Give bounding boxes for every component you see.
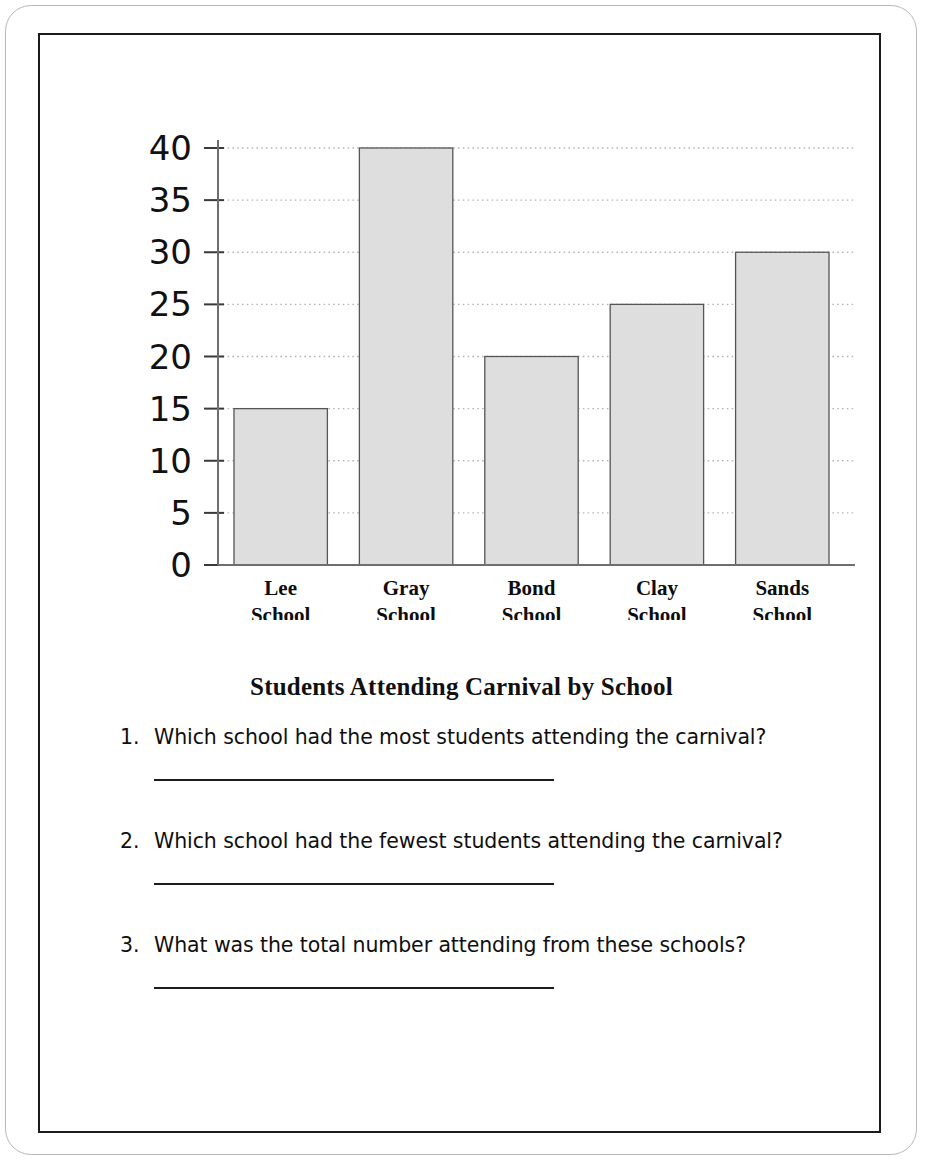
bar	[485, 357, 578, 566]
y-tick-label: 20	[149, 337, 192, 377]
y-tick-label: 40	[149, 128, 192, 168]
answer-line-2[interactable]	[154, 883, 554, 885]
bar-chart: 0510152025303540 LeeSchoolGraySchoolBond…	[100, 90, 890, 620]
bar	[610, 304, 703, 565]
question-row: 1. Which school had the most students at…	[120, 725, 820, 749]
category-label: Sands	[755, 576, 809, 600]
bar	[359, 148, 452, 565]
y-tick-label: 25	[149, 284, 192, 324]
y-tick-label: 35	[149, 180, 192, 220]
category-label: Lee	[264, 576, 297, 600]
bar	[234, 409, 327, 565]
y-tick-label: 0	[170, 545, 192, 585]
question-item-1: 1. Which school had the most students at…	[120, 725, 820, 781]
y-tick-label: 30	[149, 232, 192, 272]
question-row: 3. What was the total number attending f…	[120, 933, 820, 957]
answer-line-3[interactable]	[154, 987, 554, 989]
question-item-2: 2. Which school had the fewest students …	[120, 829, 820, 885]
y-tick-label: 15	[149, 389, 192, 429]
category-label: School	[251, 603, 311, 620]
category-label: Clay	[636, 576, 679, 600]
spacer	[120, 799, 820, 829]
answer-line-1[interactable]	[154, 779, 554, 781]
chart-bars	[234, 148, 829, 565]
y-tick-label: 5	[170, 493, 192, 533]
bar	[736, 252, 829, 565]
spacer	[120, 903, 820, 933]
chart-y-tick-labels: 0510152025303540	[149, 128, 192, 585]
question-item-3: 3. What was the total number attending f…	[120, 933, 820, 989]
category-label: Bond	[508, 576, 556, 600]
chart-y-ticks	[204, 148, 224, 565]
worksheet-frame: 0510152025303540 LeeSchoolGraySchoolBond…	[38, 33, 881, 1133]
category-label: Gray	[383, 576, 430, 600]
category-label: School	[502, 603, 562, 620]
category-label: School	[627, 603, 687, 620]
question-number: 2.	[120, 829, 154, 853]
question-text: Which school had the most students atten…	[154, 725, 820, 749]
y-tick-label: 10	[149, 441, 192, 481]
category-label: School	[753, 603, 813, 620]
question-text: What was the total number attending from…	[154, 933, 820, 957]
chart-category-labels: LeeSchoolGraySchoolBondSchoolClaySchoolS…	[251, 576, 812, 620]
chart-title: Students Attending Carnival by School	[40, 673, 883, 701]
questions-list: 1. Which school had the most students at…	[120, 725, 820, 1007]
chart-svg: 0510152025303540 LeeSchoolGraySchoolBond…	[100, 90, 890, 620]
question-text: Which school had the fewest students att…	[154, 829, 820, 853]
question-row: 2. Which school had the fewest students …	[120, 829, 820, 853]
category-label: School	[376, 603, 436, 620]
question-number: 3.	[120, 933, 154, 957]
question-number: 1.	[120, 725, 154, 749]
